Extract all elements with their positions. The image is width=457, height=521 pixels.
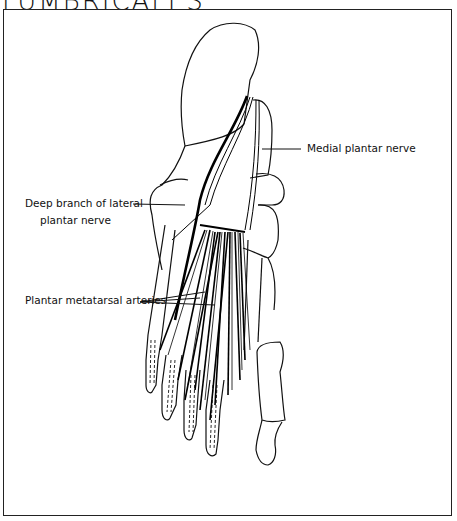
label-deep-branch-line1: Deep branch of lateral [25,197,143,209]
label-medial-plantar-nerve: Medial plantar nerve [307,142,416,154]
label-deep-branch-line2: plantar nerve [40,214,111,226]
foot-illustration [0,0,457,521]
label-plantar-metatarsal-arteries: Plantar metatarsal arteries [25,294,166,306]
